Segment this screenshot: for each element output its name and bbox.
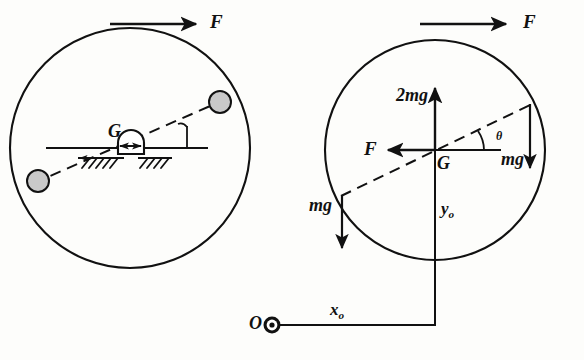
right-weight-mg-upper-label: mg [501,150,524,168]
right-panel-group [264,24,546,334]
left-support-hatching-right [140,158,169,168]
left-angle-arc-hook [178,123,187,127]
x0-base: x [330,300,339,319]
left-center-G-label: G [108,122,121,140]
right-force-F-left-label: F [364,139,377,158]
right-theta-label: θ [496,130,502,142]
physics-diagram-svg [0,0,584,360]
right-center-G-label: G [437,154,450,172]
left-panel-group [10,24,250,268]
right-force-F-top-label: F [523,12,536,31]
y0-subscript: o [449,208,455,220]
y0-base: y [441,199,449,218]
left-bearing-dome [118,130,144,154]
left-mass-ball-lower [27,170,49,192]
x0-subscript: o [339,309,345,321]
figure-canvas: F G F F 2mg G θ mg mg yo xo O [0,0,584,360]
right-weight-mg-lower-label: mg [309,196,332,214]
right-x0-label: xo [330,301,344,322]
left-force-F-label: F [210,12,223,31]
right-theta-angle-arc [478,131,484,150]
right-force-2mg-label: 2mg [396,86,428,104]
origin-O-label: O [249,314,262,332]
origin-marker-dot [269,322,274,327]
left-mass-ball-upper [209,91,231,113]
right-y0-label: yo [441,200,454,221]
